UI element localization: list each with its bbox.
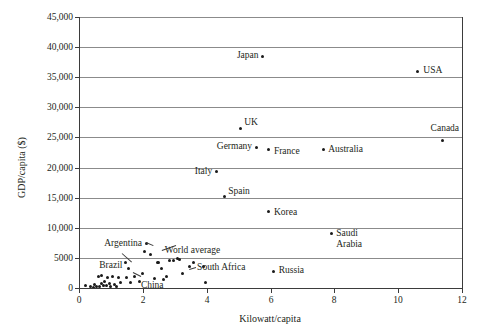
scatter-chart: GDP/capita ($) Kilowatt/capita 0500010,0… [0, 0, 489, 336]
point-label-spain: Spain [228, 186, 262, 197]
data-point [157, 261, 160, 264]
y-tick-label: 25,000 [17, 132, 73, 142]
x-axis-line [79, 288, 463, 289]
x-tick-label: 6 [257, 295, 285, 305]
data-point-germany [255, 146, 258, 149]
x-tick-label: 12 [448, 295, 476, 305]
x-tick-mark [398, 289, 399, 293]
data-point-uk [239, 127, 242, 130]
data-point-brazil [127, 267, 130, 270]
point-label-russia: Russia [279, 265, 319, 276]
data-point [172, 259, 175, 262]
y-tick-label: 10,000 [17, 223, 73, 233]
data-point-australia [322, 148, 325, 151]
point-label-world-average: World average [165, 245, 241, 256]
data-point [97, 275, 100, 278]
right-spine [462, 17, 463, 289]
point-label-japan: Japan [221, 50, 259, 61]
x-tick-label: 10 [384, 295, 412, 305]
gridline [79, 17, 462, 18]
data-point [124, 261, 127, 264]
data-point [106, 276, 109, 279]
point-label-argentina: Argentina [90, 238, 142, 249]
gridline [79, 107, 462, 108]
y-tick-label: 5000 [17, 253, 73, 263]
x-tick-label: 0 [65, 295, 93, 305]
gridline [79, 77, 462, 78]
point-label-australia: Australia [328, 144, 380, 155]
x-tick-mark [207, 289, 208, 293]
x-tick-mark [79, 289, 80, 293]
gridline [79, 137, 462, 138]
data-point [84, 284, 87, 287]
y-tick-label: 40,000 [17, 42, 73, 52]
point-label-italy: Italy [184, 166, 212, 177]
data-point-japan [261, 55, 264, 58]
y-tick-label: 0 [17, 283, 73, 293]
gridline [79, 258, 462, 259]
point-label-brazil: Brazil [82, 260, 122, 271]
x-tick-mark [462, 289, 463, 293]
x-tick-label: 2 [129, 295, 157, 305]
point-label-uk: UK [244, 117, 268, 128]
point-label-korea: Korea [274, 207, 310, 218]
point-label-france: France [274, 146, 314, 157]
gridline [79, 198, 462, 199]
point-label-south-africa: South Africa [197, 262, 263, 273]
y-tick-label: 30,000 [17, 102, 73, 112]
y-axis-line [79, 17, 80, 289]
x-tick-label: 8 [320, 295, 348, 305]
y-tick-label: 35,000 [17, 72, 73, 82]
point-label-saudi-arabia: Saudi Arabia [336, 228, 376, 250]
gridline [79, 228, 462, 229]
y-tick-label: 45,000 [17, 12, 73, 22]
data-point [103, 280, 106, 283]
data-point [204, 281, 207, 284]
gridline [79, 47, 462, 48]
y-tick-label: 15,000 [17, 193, 73, 203]
x-tick-mark [334, 289, 335, 293]
data-point-russia [272, 270, 275, 273]
x-tick-label: 4 [193, 295, 221, 305]
data-point-spain [223, 195, 226, 198]
point-label-usa: USA [423, 65, 463, 76]
x-axis-title: Kilowatt/capita [200, 313, 340, 324]
y-tick-label: 20,000 [17, 163, 73, 173]
gridline [79, 168, 462, 169]
point-label-germany: Germany [202, 141, 252, 152]
data-point-usa [416, 70, 419, 73]
x-tick-mark [271, 289, 272, 293]
data-point [178, 258, 181, 261]
